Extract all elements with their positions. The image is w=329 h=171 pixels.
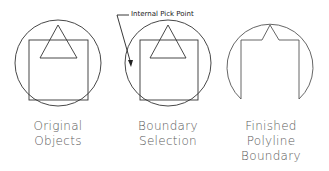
label-line: Selection xyxy=(126,134,210,149)
label-finished-boundary: Finished Polyline Boundary xyxy=(229,119,313,164)
label-line: Original xyxy=(18,119,98,134)
figure-boundary-selection xyxy=(125,20,211,106)
label-boundary-selection: Boundary Selection xyxy=(126,119,210,149)
boundary-polyline xyxy=(241,25,299,99)
triangle-shape xyxy=(40,25,77,58)
square-shape xyxy=(29,40,88,100)
triangle-shape xyxy=(150,25,186,58)
label-original-objects: Original Objects xyxy=(18,119,98,149)
label-line: Polyline xyxy=(229,134,313,149)
label-line: Boundary xyxy=(126,119,210,134)
arrowhead-icon xyxy=(128,60,133,67)
label-line: Finished xyxy=(229,119,313,134)
square-shape xyxy=(140,40,198,100)
callout-internal-pick-point: Internal Pick Point xyxy=(131,10,194,18)
figure-finished-boundary xyxy=(227,24,313,99)
label-line: Boundary xyxy=(229,149,313,164)
label-line: Objects xyxy=(18,134,98,149)
boundary-arc xyxy=(227,24,313,99)
figure-original-objects xyxy=(15,20,101,106)
